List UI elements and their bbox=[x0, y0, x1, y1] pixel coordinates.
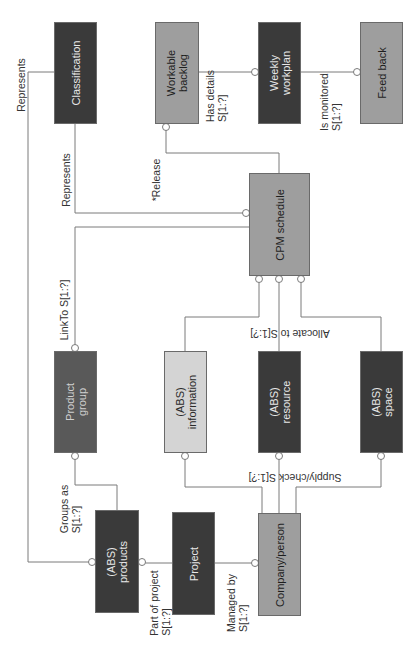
entity-company-person: Company/person bbox=[258, 513, 301, 616]
relation-part-of-project: Part of project S[1:?] bbox=[148, 570, 172, 635]
relation-groups-as: Groups as S[1:?] bbox=[58, 485, 82, 533]
relation-represents-outer: Represents bbox=[15, 58, 27, 112]
entity-relationship-diagram: Classification Workable backlog Weekly w… bbox=[0, 0, 418, 655]
entity-label: CPM schedule bbox=[274, 189, 286, 261]
entity-label: Feed back bbox=[376, 47, 388, 98]
entity-abs-resource: (ABS) resource bbox=[258, 351, 301, 453]
relation-link-to: LinkTo S[1:?] bbox=[58, 280, 70, 341]
entity-label: (ABS) resource bbox=[268, 381, 292, 424]
entity-label: (ABS) space bbox=[370, 387, 394, 416]
entity-abs-products: (ABS) products bbox=[95, 510, 139, 613]
relation-release: *Release bbox=[150, 159, 162, 202]
entity-abs-space: (ABS) space bbox=[360, 351, 403, 453]
entity-classification: Classification bbox=[54, 22, 97, 124]
entity-cpm-schedule: CPM schedule bbox=[249, 173, 310, 276]
relation-managed-by: Managed by S[1:?] bbox=[225, 574, 249, 632]
entity-label: (ABS) information bbox=[174, 375, 198, 429]
entity-label: (ABS) products bbox=[105, 540, 129, 582]
entity-label: Project bbox=[188, 546, 200, 580]
entity-label: Product group bbox=[64, 383, 88, 421]
relation-has-details: Has details S[1:?] bbox=[204, 70, 228, 122]
entity-label: Weekly workplan bbox=[268, 51, 292, 95]
entity-workable-backlog: Workable backlog bbox=[155, 22, 199, 124]
entity-feed-back: Feed back bbox=[360, 22, 403, 124]
relation-supply-check: Supply/check S[1:?] bbox=[249, 472, 342, 484]
entity-product-group: Product group bbox=[54, 351, 97, 453]
entity-label: Company/person bbox=[274, 523, 286, 607]
entity-weekly-workplan: Weekly workplan bbox=[258, 22, 301, 124]
relation-represents-inner: Represents bbox=[60, 153, 72, 207]
relation-is-monitored: Is monitored S[1:?] bbox=[318, 73, 342, 131]
entity-abs-information: (ABS) information bbox=[164, 351, 207, 453]
entity-project: Project bbox=[172, 512, 215, 615]
entity-label: Classification bbox=[70, 41, 82, 106]
entity-label: Workable backlog bbox=[165, 50, 189, 96]
relation-allocate-to: Allocate to S[1:?] bbox=[250, 328, 329, 340]
